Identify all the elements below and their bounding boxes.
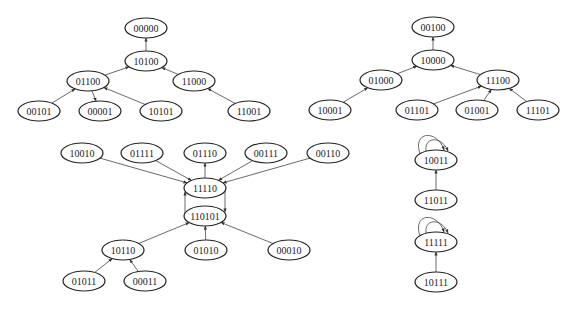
node-label: 11111 — [424, 237, 448, 248]
node-label: 10100 — [134, 56, 159, 67]
edge-01011-to-10110 — [95, 259, 112, 273]
node-label: 01000 — [369, 75, 394, 86]
node-label: 10001 — [318, 105, 343, 116]
state-node-11110: 11110 — [184, 178, 226, 198]
node-label: 01111 — [130, 148, 154, 159]
node-label: 11011 — [424, 195, 448, 206]
state-node-10101: 10101 — [140, 101, 182, 121]
state-node-10001: 10001 — [309, 100, 351, 120]
edge-00101-to-01100 — [52, 89, 75, 103]
state-node-00111: 00111 — [245, 143, 287, 163]
state-node-10111: 10111 — [415, 272, 457, 292]
node-label: 00110 — [316, 148, 341, 159]
node-label: 01100 — [76, 76, 101, 87]
state-node-00100: 00100 — [412, 17, 454, 37]
edge-01001-to-11100 — [484, 89, 492, 100]
edge-11001-to-11000 — [208, 89, 235, 104]
state-node-01010: 01010 — [185, 240, 227, 260]
node-label: 01110 — [193, 148, 217, 159]
edge-10001-to-01000 — [343, 88, 368, 102]
node-label: 01001 — [465, 105, 490, 116]
state-node-10100: 10100 — [125, 51, 167, 71]
edge-01000-to-10000 — [397, 66, 416, 73]
node-label: 01010 — [194, 245, 219, 256]
nodes-layer: 0000010100011001100000101000011010111001… — [18, 17, 559, 292]
state-node-10000: 10000 — [412, 50, 454, 70]
node-label: 00001 — [88, 106, 113, 117]
self-loop-arrow — [426, 222, 448, 233]
node-label: 01011 — [72, 276, 97, 287]
node-label: 10101 — [149, 106, 174, 117]
node-label: 10110 — [111, 245, 136, 256]
node-label: 11100 — [486, 75, 510, 86]
node-label: 10010 — [70, 148, 95, 159]
state-node-00011: 00011 — [124, 271, 166, 291]
state-node-110101: 110101 — [184, 206, 226, 226]
state-node-11011: 11011 — [415, 190, 457, 210]
edge-00010-to-110101 — [221, 222, 273, 243]
node-label: 00111 — [254, 148, 278, 159]
state-node-01111: 01111 — [121, 143, 163, 163]
node-label: 01101 — [405, 105, 430, 116]
node-label: 10111 — [424, 277, 448, 288]
state-node-11100: 11100 — [477, 70, 519, 90]
state-node-10011: 10011 — [415, 150, 457, 170]
edge-10110-to-110101 — [139, 223, 189, 244]
edge-01100-to-10100 — [105, 67, 129, 75]
state-node-00110: 00110 — [307, 143, 349, 163]
node-label: 00101 — [27, 106, 52, 117]
state-node-10110: 10110 — [102, 240, 144, 260]
edge-01111-to-11110 — [156, 161, 192, 181]
edge-11100-to-10000 — [451, 65, 481, 74]
state-node-00001: 00001 — [79, 101, 121, 121]
state-node-11001: 11001 — [228, 101, 270, 121]
node-label: 00010 — [277, 245, 302, 256]
node-label: 00000 — [134, 23, 159, 34]
node-label: 00100 — [421, 22, 446, 33]
state-node-01110: 01110 — [184, 143, 226, 163]
state-node-00010: 00010 — [268, 240, 310, 260]
edge-00011-to-10110 — [130, 259, 139, 271]
state-node-00000: 00000 — [125, 18, 167, 38]
edge-00111-to-11110 — [218, 161, 252, 181]
state-node-00101: 00101 — [18, 101, 60, 121]
node-label: 10000 — [421, 55, 446, 66]
state-node-11000: 11000 — [173, 71, 215, 91]
node-label: 11101 — [526, 105, 550, 116]
node-label: 110101 — [190, 211, 220, 222]
edge-01100-to-00001 — [92, 91, 96, 101]
state-node-01011: 01011 — [63, 271, 105, 291]
state-node-01100: 01100 — [67, 71, 109, 91]
node-label: 00011 — [133, 276, 158, 287]
state-node-10010: 10010 — [61, 143, 103, 163]
self-loop-arrow — [426, 140, 448, 151]
edge-11000-to-10100 — [162, 68, 178, 75]
node-label: 11000 — [182, 76, 207, 87]
node-label: 10011 — [424, 155, 449, 166]
node-label: 11001 — [237, 106, 262, 117]
node-label: 11110 — [193, 183, 217, 194]
state-graph: 0000010100011001100000101000011010111001… — [0, 0, 575, 311]
state-node-11101: 11101 — [517, 100, 559, 120]
state-node-01001: 01001 — [456, 100, 498, 120]
state-node-01000: 01000 — [360, 70, 402, 90]
state-node-01101: 01101 — [396, 100, 438, 120]
state-node-11111: 11111 — [415, 232, 457, 252]
edge-11101-to-11100 — [509, 88, 526, 101]
